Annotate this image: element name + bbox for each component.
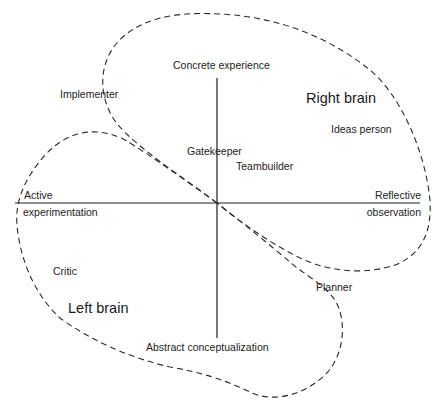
axis-label-observation: observation — [342, 206, 421, 218]
right-brain-boundary — [103, 13, 430, 270]
axis-label-reflective: Reflective — [342, 189, 421, 201]
role-label-gatekeeper: Gatekeeper — [187, 145, 242, 157]
axis-label-abstract-conceptualization: Abstract conceptualization — [146, 341, 269, 353]
axis-label-active: Active — [24, 189, 53, 201]
region-label-left-brain: Left brain — [68, 300, 128, 316]
role-label-critic: Critic — [53, 265, 77, 277]
axis-label-experimentation: experimentation — [23, 206, 98, 218]
region-label-right-brain: Right brain — [306, 90, 376, 106]
role-label-teambuilder: Teambuilder — [236, 160, 293, 172]
role-label-planner: Planner — [316, 281, 352, 293]
role-label-implementer: Implementer — [60, 88, 118, 100]
axis-label-concrete-experience: Concrete experience — [173, 59, 270, 71]
role-label-ideas-person: Ideas person — [331, 123, 392, 135]
